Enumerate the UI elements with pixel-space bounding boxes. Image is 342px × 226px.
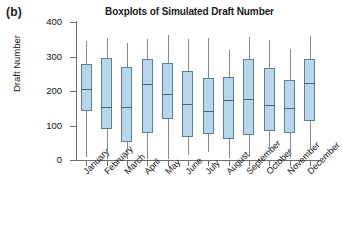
boxplot-box bbox=[162, 63, 173, 120]
boxplot-box bbox=[243, 59, 254, 135]
y-axis-tick-label: 0 bbox=[26, 155, 62, 165]
x-axis-tick-label: July bbox=[204, 159, 222, 177]
boxplot-median bbox=[182, 104, 193, 105]
boxplot-box bbox=[203, 78, 214, 135]
boxplot-box bbox=[101, 58, 112, 129]
boxplot-median bbox=[203, 111, 214, 112]
y-axis-tick bbox=[70, 126, 76, 127]
y-axis-line bbox=[76, 21, 77, 161]
boxplot-median bbox=[101, 107, 112, 108]
boxplot-median bbox=[264, 105, 275, 106]
boxplot-box bbox=[81, 64, 92, 111]
boxplot-median bbox=[284, 108, 295, 109]
boxplot-median bbox=[142, 84, 153, 85]
boxplot-box bbox=[142, 59, 153, 133]
y-axis-tick bbox=[70, 57, 76, 58]
boxplot-box bbox=[223, 77, 234, 140]
boxplot-median bbox=[223, 100, 234, 101]
y-axis-tick bbox=[70, 91, 76, 92]
y-axis-tick bbox=[70, 22, 76, 23]
boxplot-median bbox=[121, 107, 132, 108]
boxplot-box bbox=[304, 59, 315, 121]
y-axis-tick-label: 100 bbox=[26, 121, 62, 131]
y-axis-tick-label: 300 bbox=[26, 52, 62, 62]
boxplot-median bbox=[81, 89, 92, 90]
boxplot-box bbox=[264, 68, 275, 132]
boxplot-box bbox=[121, 67, 132, 143]
y-axis-title: Draft Number bbox=[11, 24, 22, 104]
y-axis-tick bbox=[70, 160, 76, 161]
y-axis-tick-label: 400 bbox=[26, 17, 62, 27]
boxplot-median bbox=[162, 94, 173, 95]
boxplot-median bbox=[243, 99, 254, 100]
boxplot-box bbox=[284, 80, 295, 133]
boxplot-median bbox=[304, 83, 315, 84]
y-axis-tick-label: 200 bbox=[26, 86, 62, 96]
